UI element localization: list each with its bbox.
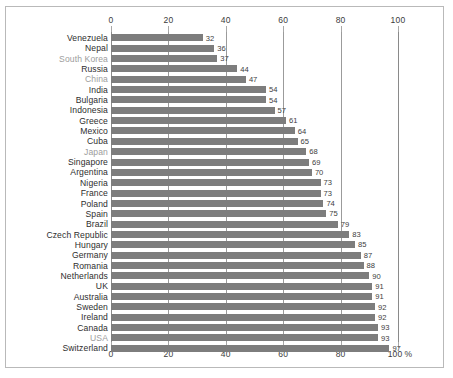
bar-value-indonesia: 57 — [278, 106, 286, 115]
bar-romania[interactable] — [111, 262, 364, 269]
bar-value-china: 47 — [249, 75, 257, 84]
bar-value-poland: 74 — [326, 199, 334, 208]
bar-value-brazil: 79 — [341, 220, 349, 229]
bar-row: Greece61 — [0, 116, 453, 126]
axis-tick-label-top-0: 0 — [109, 15, 114, 25]
category-label-greece: Greece — [79, 116, 108, 126]
bar-value-sweden: 92 — [378, 303, 386, 312]
bar-canada[interactable] — [111, 324, 378, 331]
bar-row: Japan68 — [0, 147, 453, 157]
bar-row: Bulgaria54 — [0, 95, 453, 105]
category-label-france: France — [81, 188, 108, 198]
bar-row: USA93 — [0, 333, 453, 343]
bar-row: Brazil79 — [0, 219, 453, 229]
bar-value-germany: 87 — [364, 251, 372, 260]
bar-value-india: 54 — [269, 85, 277, 94]
category-label-spain: Spain — [86, 209, 108, 219]
bar-netherlands[interactable] — [111, 272, 369, 279]
axis-tick-top-80 — [341, 26, 342, 32]
bar-value-usa: 93 — [381, 334, 389, 343]
category-label-venezuela: Venezuela — [67, 33, 108, 43]
bar-value-czech-republic: 83 — [352, 230, 360, 239]
category-label-south-korea: South Korea — [59, 54, 108, 64]
bar-ireland[interactable] — [111, 314, 375, 321]
category-label-indonesia: Indonesia — [70, 105, 108, 115]
bar-spain[interactable] — [111, 210, 326, 217]
bar-india[interactable] — [111, 86, 266, 93]
category-label-uk: UK — [96, 281, 108, 291]
bar-south-korea[interactable] — [111, 55, 217, 62]
bar-value-uk: 91 — [375, 282, 383, 291]
category-label-singapore: Singapore — [68, 157, 108, 167]
bar-switzerland[interactable] — [111, 345, 389, 352]
category-label-switzerland: Switzerland — [62, 343, 108, 353]
bar-value-switzerland: 97 — [392, 344, 400, 353]
bar-poland[interactable] — [111, 200, 323, 207]
axis-tick-label-top-100: 100 — [391, 15, 406, 25]
bar-row: Germany87 — [0, 250, 453, 260]
bar-hungary[interactable] — [111, 241, 355, 248]
bar-row: Australia91 — [0, 292, 453, 302]
bar-row: Canada93 — [0, 323, 453, 333]
bar-sweden[interactable] — [111, 303, 375, 310]
bar-rows: Venezuela32Nepal36South Korea37Russia44C… — [0, 33, 453, 354]
bar-singapore[interactable] — [111, 159, 309, 166]
bar-row: Indonesia57 — [0, 105, 453, 115]
bar-france[interactable] — [111, 190, 321, 197]
bar-value-cuba: 65 — [301, 137, 309, 146]
category-label-usa: USA — [90, 333, 108, 343]
axis-tick-top-0 — [111, 26, 112, 32]
bar-greece[interactable] — [111, 117, 286, 124]
category-label-canada: Canada — [77, 323, 108, 333]
bar-uk[interactable] — [111, 283, 372, 290]
category-label-russia: Russia — [81, 64, 108, 74]
bar-indonesia[interactable] — [111, 107, 275, 114]
bar-nepal[interactable] — [111, 45, 214, 52]
chart-page: 002020404060608080100100%Venezuela32Nepa… — [0, 0, 453, 378]
bar-czech-republic[interactable] — [111, 231, 349, 238]
bar-germany[interactable] — [111, 252, 361, 259]
bar-russia[interactable] — [111, 65, 237, 72]
bar-japan[interactable] — [111, 148, 306, 155]
bar-mexico[interactable] — [111, 127, 295, 134]
bar-nigeria[interactable] — [111, 179, 321, 186]
bar-row: South Korea37 — [0, 54, 453, 64]
chart-plot-area: 002020404060608080100100%Venezuela32Nepa… — [0, 0, 453, 378]
category-label-ireland: Ireland — [81, 312, 108, 322]
category-label-argentina: Argentina — [70, 167, 108, 177]
bar-row: Singapore69 — [0, 157, 453, 167]
bar-value-australia: 91 — [375, 292, 383, 301]
category-label-czech-republic: Czech Republic — [46, 230, 108, 240]
axis-tick-label-top-40: 40 — [221, 15, 231, 25]
bar-argentina[interactable] — [111, 169, 312, 176]
bar-row: Romania88 — [0, 261, 453, 271]
bar-row: Venezuela32 — [0, 33, 453, 43]
bar-row: Ireland92 — [0, 312, 453, 322]
bar-value-canada: 93 — [381, 323, 389, 332]
bar-bulgaria[interactable] — [111, 96, 266, 103]
category-label-india: India — [89, 85, 108, 95]
category-label-australia: Australia — [74, 292, 108, 302]
bar-brazil[interactable] — [111, 221, 338, 228]
bar-value-france: 73 — [324, 189, 332, 198]
bar-value-ireland: 92 — [378, 313, 386, 322]
bar-value-spain: 75 — [329, 209, 337, 218]
bar-usa[interactable] — [111, 334, 378, 341]
bar-value-mexico: 64 — [298, 127, 306, 136]
bar-value-japan: 68 — [309, 147, 317, 156]
bar-row: Mexico64 — [0, 126, 453, 136]
category-label-nepal: Nepal — [85, 43, 108, 53]
category-label-japan: Japan — [84, 147, 108, 157]
bar-row: Netherlands90 — [0, 271, 453, 281]
bar-value-south-korea: 37 — [220, 54, 228, 63]
axis-tick-top-20 — [168, 26, 169, 32]
bar-value-argentina: 70 — [315, 168, 323, 177]
bar-cuba[interactable] — [111, 138, 298, 145]
bar-china[interactable] — [111, 76, 246, 83]
bar-row: Nepal36 — [0, 43, 453, 53]
category-label-brazil: Brazil — [86, 219, 108, 229]
bar-venezuela[interactable] — [111, 34, 203, 41]
bar-row: Russia44 — [0, 64, 453, 74]
axis-tick-top-100 — [398, 26, 399, 32]
bar-australia[interactable] — [111, 293, 372, 300]
